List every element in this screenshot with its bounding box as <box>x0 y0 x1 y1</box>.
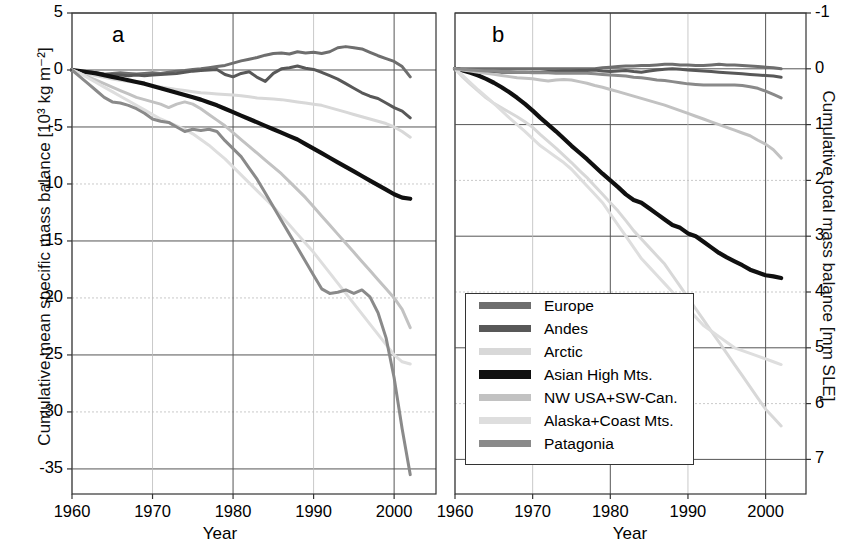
legend-item-label: Alaska+Coast Mts. <box>544 412 674 430</box>
panel-a-series-asian-high-mts <box>72 70 410 199</box>
panel-a-ytick-label: -5 <box>23 116 63 135</box>
legend-swatch-icon <box>479 394 531 401</box>
panel-b-series-patagonia <box>455 69 781 98</box>
panel-b-xtick-label: 1970 <box>506 502 560 521</box>
panel-a-ytick-label: -20 <box>23 287 63 306</box>
panel-b-ytick-label: 3 <box>815 225 849 244</box>
panel-a-series-europe <box>72 47 410 77</box>
panel-b-series-europe <box>455 64 781 68</box>
panel-a-ytick-label: 5 <box>23 2 63 21</box>
panel-b-ytick-label: 0 <box>815 58 849 77</box>
panel-a-x-axis-title: Year <box>130 524 310 544</box>
panel-b-ytick-label: 1 <box>815 114 849 133</box>
panel-a-ytick-label: -35 <box>23 458 63 477</box>
legend-swatch-icon <box>479 417 531 424</box>
legend-item: Asian High Mts. <box>466 363 693 386</box>
legend-swatch-icon <box>479 440 531 447</box>
legend-item-label: Asian High Mts. <box>544 366 653 384</box>
legend-item: NW USA+SW-Can. <box>466 386 693 409</box>
panel-b-xtick-label: 1960 <box>428 502 482 521</box>
panel-b-ytick-label: -1 <box>815 2 849 21</box>
panel-a-frame <box>72 13 436 494</box>
panel-b-ytick-label: 4 <box>815 281 849 300</box>
panel-b-series-andes <box>455 69 781 77</box>
panel-a-xtick-label: 2000 <box>367 502 421 521</box>
panel-b-x-axis-title: Year <box>540 524 720 544</box>
panel-a-ytick-label: -30 <box>23 401 63 420</box>
figure-root: Cumulative mean specific mass balance [1… <box>0 0 866 551</box>
panel-a-letter: a <box>112 22 124 48</box>
panel-a-series-arctic <box>72 70 410 137</box>
panel-a-xtick-label: 1990 <box>287 502 341 521</box>
legend-swatch-icon <box>479 325 531 332</box>
panel-a-series-alaska-coast-mts <box>72 70 410 364</box>
panel-a-ytick-label: -25 <box>23 344 63 363</box>
legend-item-label: NW USA+SW-Can. <box>544 389 678 407</box>
panel-a-ytick-label: -10 <box>23 173 63 192</box>
legend-item: Andes <box>466 317 693 340</box>
legend-swatch-icon <box>479 348 531 355</box>
panel-a-xtick-label: 1970 <box>126 502 180 521</box>
panel-a-xtick-label: 1980 <box>206 502 260 521</box>
panel-b-xtick-label: 1990 <box>661 502 715 521</box>
legend-item-label: Arctic <box>544 343 583 361</box>
panel-b-ytick-label: 7 <box>815 448 849 467</box>
panel-b-xtick-label: 2000 <box>739 502 793 521</box>
legend-item-label: Patagonia <box>544 435 614 453</box>
panel-b-series-nw-usa-sw-can <box>455 69 781 158</box>
panel-a-series-patagonia <box>72 70 410 475</box>
legend-item: Arctic <box>466 340 693 363</box>
panel-b-ytick-label: 6 <box>815 393 849 412</box>
panel-b-series-asian-high-mts <box>455 69 781 278</box>
panel-a-plot <box>0 0 866 551</box>
legend-swatch-icon <box>479 302 531 309</box>
panel-b-letter: b <box>492 22 504 48</box>
legend-item: Patagonia <box>466 432 693 455</box>
legend-item-label: Andes <box>544 320 588 338</box>
legend-item-label: Europe <box>544 297 594 315</box>
panel-b-xtick-label: 1980 <box>583 502 637 521</box>
legend-item: Europe <box>466 294 693 317</box>
legend-swatch-icon <box>479 370 531 379</box>
panel-a-ytick-label: 0 <box>23 59 63 78</box>
panel-a-series-andes <box>72 66 410 118</box>
panel-b-ytick-label: 5 <box>815 337 849 356</box>
panel-a-ytick-label: -15 <box>23 230 63 249</box>
legend: EuropeAndesArcticAsian High Mts.NW USA+S… <box>465 293 694 465</box>
legend-item: Alaska+Coast Mts. <box>466 409 693 432</box>
panel-a-xtick-label: 1960 <box>45 502 99 521</box>
panel-a-series-nw-usa-sw-can <box>72 70 410 328</box>
panel-b-ytick-label: 2 <box>815 169 849 188</box>
